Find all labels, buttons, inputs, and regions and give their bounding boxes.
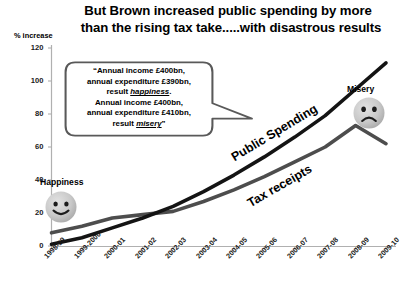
y-axis-tick-label: 20 xyxy=(18,208,44,217)
callout-line-4: Annual income £400bn, xyxy=(70,98,208,109)
annotation-label-misery: Misery xyxy=(347,84,374,94)
callout-line-6: result misery” xyxy=(70,119,208,130)
y-axis-tick-label: 100 xyxy=(18,76,44,85)
chart-figure: But Brown increased public spending by m… xyxy=(0,0,407,297)
callout-text: “Annual income £400bn, annual expenditur… xyxy=(64,61,214,137)
callout-line-2: annual expenditure £390bn, xyxy=(70,77,208,88)
callout-line-5: annual expenditure £410bn, xyxy=(70,108,208,119)
smiley-happy-face-icon xyxy=(44,190,78,224)
callout-line-3: result happiness. xyxy=(70,87,208,98)
callout-line-1: “Annual income £400bn, xyxy=(70,66,208,77)
annotation-label-happiness: Happiness xyxy=(40,177,83,187)
y-axis-tick-label: 60 xyxy=(18,142,44,151)
callout-annotation: “Annual income £400bn, annual expenditur… xyxy=(64,61,214,137)
y-axis-tick-label: 120 xyxy=(18,43,44,52)
y-axis-tick-label: 80 xyxy=(18,109,44,118)
smiley-sad-face-icon xyxy=(352,96,386,130)
y-axis-tick-label: 0 xyxy=(18,241,44,250)
